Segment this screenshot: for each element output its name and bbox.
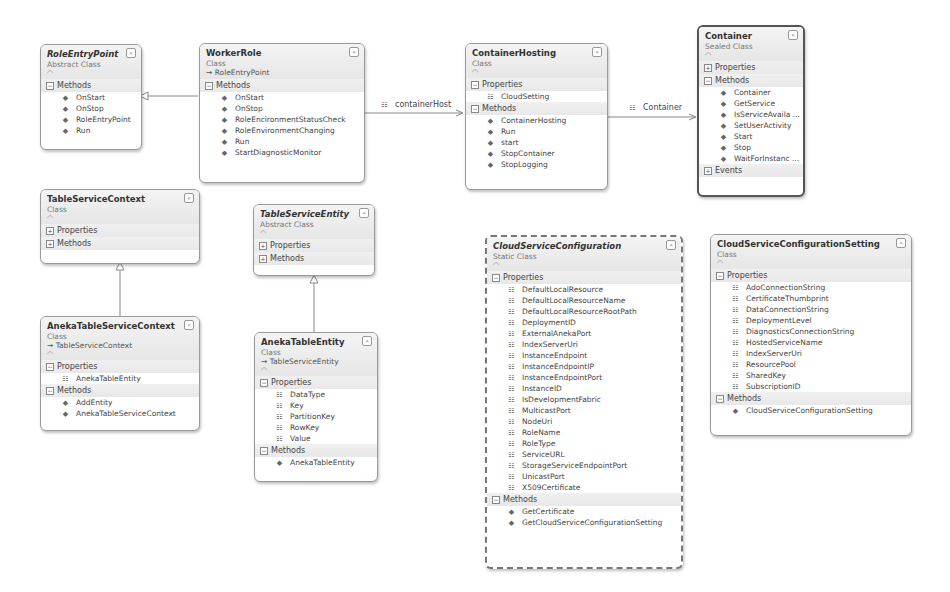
property-item[interactable]: DataType <box>255 389 377 400</box>
collapse-icon[interactable]: ◠ <box>47 214 193 222</box>
methods-section[interactable]: −Methods <box>466 102 607 115</box>
collapsed-icon[interactable]: + <box>46 227 54 235</box>
method-item[interactable]: AddEntity <box>41 397 199 408</box>
collapse-icon[interactable]: ◠ <box>261 366 371 374</box>
property-item[interactable]: DiagnosticsConnectionString <box>711 326 911 337</box>
method-item[interactable]: Run <box>41 125 141 136</box>
method-item[interactable]: Start <box>699 131 803 142</box>
collapse-toggle-button[interactable]: « <box>592 47 602 57</box>
collapsed-icon[interactable]: + <box>259 242 267 250</box>
class-header[interactable]: CloudServiceConfiguration Static Class ◠… <box>487 237 681 271</box>
property-item[interactable]: ExternalAnekaPort <box>487 328 681 339</box>
methods-section[interactable]: −Methods <box>699 74 803 87</box>
events-section[interactable]: +Events <box>699 164 803 177</box>
expanded-icon[interactable]: − <box>704 77 712 85</box>
property-item[interactable]: MulticastPort <box>487 405 681 416</box>
class-box-cloud-service-configuration-setting[interactable]: CloudServiceConfigurationSetting Class ◠… <box>710 234 912 436</box>
collapse-icon[interactable]: ◠ <box>47 350 193 358</box>
properties-section[interactable]: +Properties <box>254 239 374 252</box>
expanded-icon[interactable]: − <box>492 274 500 282</box>
property-item[interactable]: RoleName <box>487 427 681 438</box>
class-header[interactable]: AnekaTableEntity Class → TableServiceEnt… <box>255 333 377 376</box>
property-item[interactable]: HostedServiceName <box>711 337 911 348</box>
property-item[interactable]: DeploymentLevel <box>711 315 911 326</box>
property-item[interactable]: IsDevelopmentFabric <box>487 394 681 405</box>
property-item[interactable]: InstanceEndpointIP <box>487 361 681 372</box>
method-item[interactable]: StopContainer <box>466 148 607 159</box>
property-item[interactable]: SubscriptionID <box>711 381 911 392</box>
method-item[interactable]: Container <box>699 87 803 98</box>
method-item[interactable]: OnStop <box>41 103 141 114</box>
property-item[interactable]: InstanceID <box>487 383 681 394</box>
property-item[interactable]: X509Certificate <box>487 482 681 493</box>
expanded-icon[interactable]: − <box>260 379 268 387</box>
property-item[interactable]: RowKey <box>255 422 377 433</box>
collapse-toggle-button[interactable]: « <box>359 208 369 218</box>
method-item[interactable]: Run <box>200 136 364 147</box>
class-box-worker-role[interactable]: WorkerRole Class → RoleEntryPoint « −Met… <box>199 43 365 183</box>
property-item[interactable]: DataConnectionString <box>711 304 911 315</box>
collapsed-icon[interactable]: + <box>704 167 712 175</box>
method-item[interactable]: SetUserActivity <box>699 120 803 131</box>
property-item[interactable]: DefaultLocalResourceRootPath <box>487 306 681 317</box>
method-item[interactable]: start <box>466 137 607 148</box>
class-header[interactable]: Container Sealed Class ◠ « <box>699 27 803 61</box>
expanded-icon[interactable]: − <box>471 81 479 89</box>
methods-section[interactable]: −Methods <box>41 384 199 397</box>
collapse-icon[interactable]: ◠ <box>472 68 601 76</box>
method-item[interactable]: ContainerHosting <box>466 115 607 126</box>
collapse-icon[interactable]: ◠ <box>493 261 675 269</box>
properties-section[interactable]: −Properties <box>41 360 199 373</box>
property-item[interactable]: ServiceURL <box>487 449 681 460</box>
class-box-table-service-entity[interactable]: TableServiceEntity Abstract Class ◠ « +P… <box>253 204 375 276</box>
methods-section[interactable]: +Methods <box>254 252 374 265</box>
property-item[interactable]: ResourcePool <box>711 359 911 370</box>
class-box-cloud-service-configuration[interactable]: CloudServiceConfiguration Static Class ◠… <box>485 235 683 569</box>
property-item[interactable]: RoleType <box>487 438 681 449</box>
method-item[interactable]: RoleEntryPoint <box>41 114 141 125</box>
class-header[interactable]: RoleEntryPoint Abstract Class ◠ « <box>41 45 141 79</box>
collapse-toggle-button[interactable]: « <box>362 336 372 346</box>
collapse-toggle-button[interactable]: « <box>896 238 906 248</box>
method-item[interactable]: StartDiagnosticMonitor <box>200 147 364 158</box>
methods-section[interactable]: −Methods <box>487 493 681 506</box>
property-item[interactable]: DefaultLocalResource <box>487 284 681 295</box>
method-item[interactable]: OnStart <box>200 92 364 103</box>
collapsed-icon[interactable]: + <box>46 240 54 248</box>
class-box-aneka-table-service-context[interactable]: AnekaTableServiceContext Class → TableSe… <box>40 316 200 431</box>
methods-section[interactable]: −Methods <box>255 444 377 457</box>
method-item[interactable]: Run <box>466 126 607 137</box>
class-box-container-hosting[interactable]: ContainerHosting Class ◠ « −Properties C… <box>465 43 608 190</box>
collapse-toggle-button[interactable]: « <box>788 30 798 40</box>
methods-section[interactable]: −Methods <box>200 79 364 92</box>
class-header[interactable]: TableServiceEntity Abstract Class ◠ « <box>254 205 374 239</box>
property-item[interactable]: AdoConnectionString <box>711 282 911 293</box>
methods-section[interactable]: +Methods <box>41 237 199 250</box>
property-item[interactable]: CloudSetting <box>466 91 607 102</box>
property-item[interactable]: IndexServerUri <box>487 339 681 350</box>
properties-section[interactable]: +Properties <box>41 224 199 237</box>
class-header[interactable]: TableServiceContext Class ◠ « <box>41 190 199 224</box>
method-item[interactable]: RoleEncironmentStatusCheck <box>200 114 364 125</box>
property-item[interactable]: Value <box>255 433 377 444</box>
collapse-toggle-button[interactable]: « <box>349 47 359 57</box>
expanded-icon[interactable]: − <box>471 105 479 113</box>
method-item[interactable]: RoleEnvironmentChanging <box>200 125 364 136</box>
expanded-icon[interactable]: − <box>492 496 500 504</box>
class-header[interactable]: ContainerHosting Class ◠ « <box>466 44 607 78</box>
collapse-icon[interactable]: ◠ <box>47 69 135 77</box>
property-item[interactable]: DefaultLocalResourceName <box>487 295 681 306</box>
property-item[interactable]: SharedKey <box>711 370 911 381</box>
properties-section[interactable]: −Properties <box>255 376 377 389</box>
expanded-icon[interactable]: − <box>260 447 268 455</box>
collapse-toggle-button[interactable]: « <box>666 240 676 250</box>
property-item[interactable]: Key <box>255 400 377 411</box>
expanded-icon[interactable]: − <box>46 363 54 371</box>
method-item[interactable]: CloudServiceConfigurationSetting <box>711 405 911 416</box>
collapse-toggle-button[interactable]: « <box>184 320 194 330</box>
expanded-icon[interactable]: − <box>716 395 724 403</box>
class-header[interactable]: CloudServiceConfigurationSetting Class ◠… <box>711 235 911 269</box>
method-item[interactable]: GetCloudServiceConfigurationSetting <box>487 517 681 528</box>
expanded-icon[interactable]: − <box>205 82 213 90</box>
class-box-aneka-table-entity[interactable]: AnekaTableEntity Class → TableServiceEnt… <box>254 332 378 482</box>
